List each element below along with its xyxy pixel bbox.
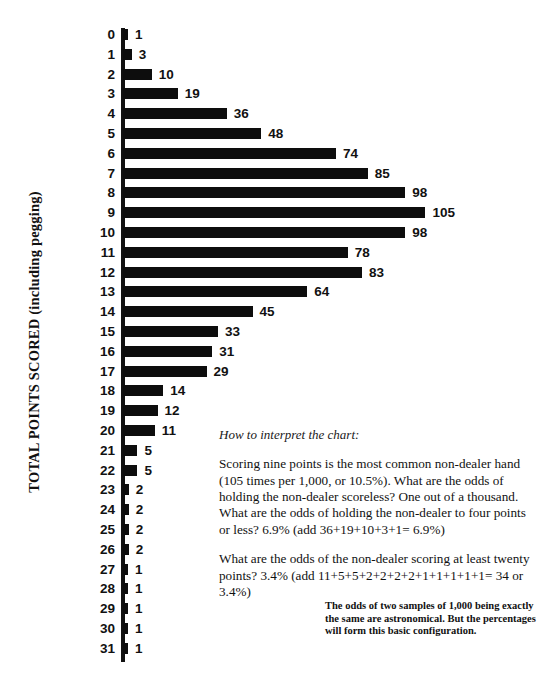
bar-row-label: 1 (60, 48, 115, 62)
bar (123, 69, 152, 80)
bar-row: 210 (60, 68, 530, 88)
y-axis-title-container: TOTAL POINTS SCORED (including pegging) (14, 0, 54, 684)
bar (123, 49, 132, 60)
bar-row-label: 0 (60, 28, 115, 42)
bar-row: 9105 (60, 206, 530, 226)
bar-row-label: 13 (60, 285, 115, 299)
bar-row-label: 22 (60, 464, 115, 478)
bar-row: 1533 (60, 325, 530, 345)
bar-row-label: 12 (60, 266, 115, 280)
bar-row: 1631 (60, 345, 530, 365)
bar-value-label: 5 (144, 464, 152, 477)
bar-row-label: 17 (60, 365, 115, 379)
bar-row: 785 (60, 167, 530, 187)
bar-value-label: 33 (225, 325, 240, 338)
bar (123, 564, 128, 575)
bar (123, 405, 158, 416)
bar-value-label: 19 (185, 87, 200, 100)
bar-row: 311 (60, 642, 530, 662)
bar (123, 148, 336, 159)
bar-row-label: 6 (60, 147, 115, 161)
bar-row-label: 23 (60, 483, 115, 497)
bar-value-label: 5 (144, 444, 152, 457)
bar-value-label: 1 (135, 642, 143, 655)
bar-row: 436 (60, 107, 530, 127)
bar (123, 445, 137, 456)
bar-row-label: 26 (60, 543, 115, 557)
bar-value-label: 1 (135, 622, 143, 635)
bar (123, 643, 128, 654)
bar-value-label: 2 (136, 483, 144, 496)
bar-row-label: 16 (60, 345, 115, 359)
bar-row-label: 15 (60, 325, 115, 339)
bar-value-label: 45 (260, 305, 275, 318)
bar (123, 425, 155, 436)
bar-value-label: 3 (139, 48, 147, 61)
bar (123, 504, 129, 515)
bar-value-label: 2 (136, 523, 144, 536)
bar-row: 13 (60, 48, 530, 68)
bar (123, 524, 129, 535)
bar-row: 898 (60, 186, 530, 206)
bar-row-label: 28 (60, 582, 115, 596)
bar-value-label: 11 (162, 424, 176, 437)
bar (123, 385, 163, 396)
bar-value-label: 98 (412, 186, 427, 199)
bar-row-label: 8 (60, 186, 115, 200)
bar (123, 465, 137, 476)
interpretation-paragraphs: Scoring nine points is the most common n… (219, 456, 535, 600)
bar-row: 674 (60, 147, 530, 167)
bar-row-label: 14 (60, 305, 115, 319)
bar-row-label: 21 (60, 444, 115, 458)
bar (123, 267, 362, 278)
bar-row-label: 7 (60, 167, 115, 181)
bar-value-label: 1 (135, 582, 143, 595)
bar-value-label: 10 (159, 68, 174, 81)
bar (123, 366, 207, 377)
bar (123, 187, 405, 198)
bar-row-label: 27 (60, 563, 115, 577)
bar-row: 1098 (60, 226, 530, 246)
bar (123, 128, 261, 139)
bar-row-label: 18 (60, 384, 115, 398)
bar-value-label: 64 (314, 285, 329, 298)
bar-value-label: 83 (369, 266, 384, 279)
bar (123, 326, 218, 337)
bar-row-label: 25 (60, 523, 115, 537)
bar-row-label: 3 (60, 87, 115, 101)
bar (123, 603, 128, 614)
bar-row: 1445 (60, 305, 530, 325)
bar (123, 29, 128, 40)
bar (123, 484, 129, 495)
bar-row: 1912 (60, 404, 530, 424)
bar-value-label: 78 (355, 246, 370, 259)
bar-value-label: 74 (343, 147, 358, 160)
bar-value-label: 1 (135, 563, 143, 576)
bar (123, 346, 212, 357)
bar (123, 583, 128, 594)
bar-value-label: 2 (136, 503, 144, 516)
bar-row-label: 19 (60, 404, 115, 418)
bar-row: 319 (60, 87, 530, 107)
bar (123, 227, 405, 238)
bar-row: 01 (60, 28, 530, 48)
interpretation-block: How to interpret the chart: Scoring nine… (219, 427, 535, 610)
bar-row: 548 (60, 127, 530, 147)
bar-row: 1364 (60, 285, 530, 305)
bar-row-label: 20 (60, 424, 115, 438)
bar-row: 1178 (60, 246, 530, 266)
y-axis-title: TOTAL POINTS SCORED (including pegging) (26, 191, 43, 492)
bar-value-label: 105 (432, 206, 455, 219)
bar-row: 1814 (60, 384, 530, 404)
bar-value-label: 1 (135, 28, 143, 41)
bar-value-label: 2 (136, 543, 144, 556)
footnote-text: The odds of two samples of 1,000 being e… (325, 600, 537, 638)
bar (123, 247, 348, 258)
bar (123, 108, 227, 119)
bar-value-label: 14 (170, 384, 185, 397)
bar-row-label: 31 (60, 642, 115, 656)
bar-value-label: 31 (219, 345, 234, 358)
bar (123, 88, 178, 99)
bar-row-label: 29 (60, 602, 115, 616)
bar-row: 1729 (60, 365, 530, 385)
